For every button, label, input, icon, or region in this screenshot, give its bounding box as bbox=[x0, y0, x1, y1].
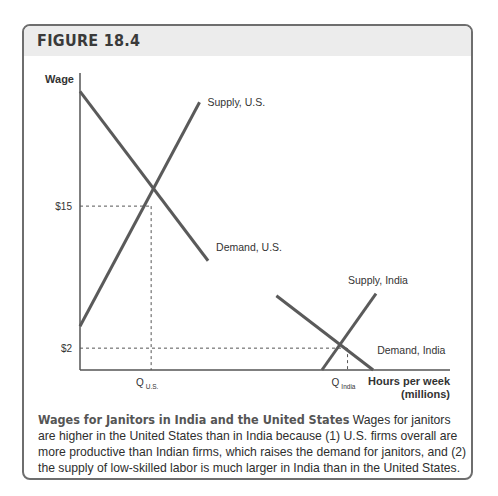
x-tick-label: QU.S. bbox=[136, 377, 159, 390]
curve-demand-u-s bbox=[80, 91, 208, 260]
x-axis-label-line1: Hours per week bbox=[368, 375, 451, 387]
y-tick-label: $2 bbox=[61, 343, 73, 354]
figure-caption: Wages for Janitors in India and the Unit… bbox=[38, 412, 468, 476]
curve-label: Demand, India bbox=[377, 344, 445, 356]
curve-label: Supply, U.S. bbox=[208, 96, 266, 108]
caption-title: Wages for Janitors in India and the Unit… bbox=[38, 412, 349, 427]
y-axis-label: Wage bbox=[45, 73, 74, 85]
curve-demand-india bbox=[276, 296, 373, 370]
curve-supply-u-s bbox=[80, 102, 200, 326]
x-tick-label: QIndia bbox=[332, 377, 356, 390]
x-axis-label-line2: (millions) bbox=[401, 388, 450, 400]
curve-label: Demand, U.S. bbox=[216, 241, 282, 253]
curve-label: Supply, India bbox=[348, 274, 408, 286]
curve-supply-india bbox=[322, 294, 376, 370]
y-tick-label: $15 bbox=[55, 201, 72, 212]
